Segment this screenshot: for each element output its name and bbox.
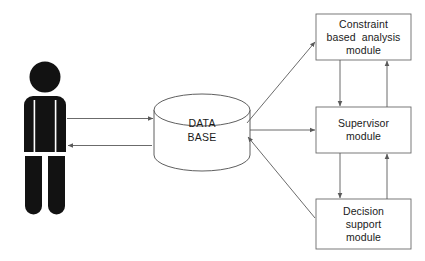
constraint-based-analysis-module-box[interactable] — [316, 14, 411, 60]
database-label-line-2: BASE — [170, 130, 234, 144]
database-label-line-1: DATA — [170, 116, 234, 130]
connector-database-to-constraint-module — [247, 42, 315, 123]
connector-decision-module-to-database — [248, 137, 315, 218]
person-silhouette-icon — [24, 62, 66, 215]
supervisor-module-box[interactable] — [316, 107, 411, 153]
system-architecture-diagram: DATA BASE Constraint based analysis modu… — [0, 0, 425, 261]
database-label: DATA BASE — [170, 116, 234, 144]
decision-support-module-box[interactable] — [316, 199, 411, 249]
